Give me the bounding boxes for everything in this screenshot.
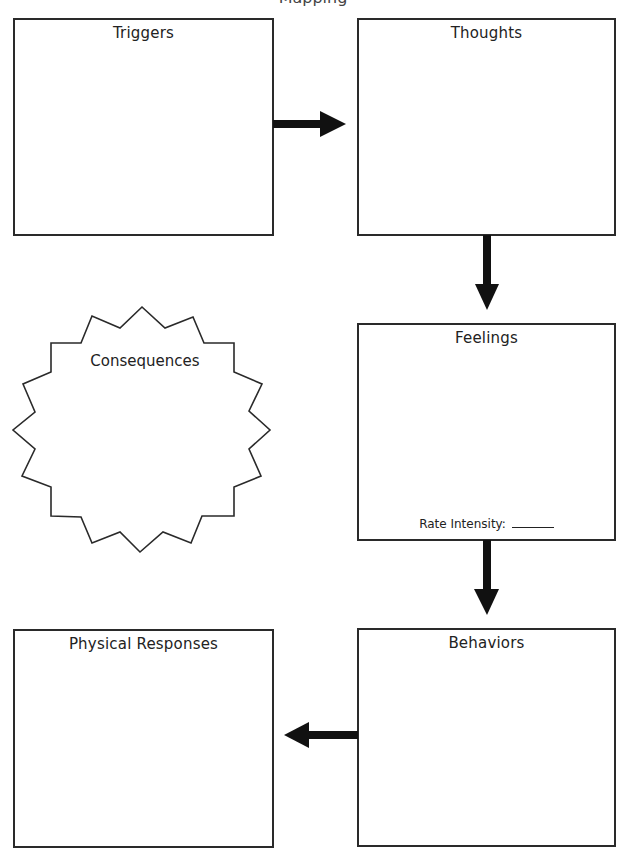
arrow-down-icon (474, 540, 499, 615)
diagram-overlay (0, 0, 626, 859)
arrow-down-icon (475, 235, 499, 310)
consequences-starburst[interactable] (13, 307, 270, 552)
consequences-label: Consequences (60, 352, 230, 370)
arrow-right-icon (273, 111, 346, 137)
arrow-left-icon (284, 722, 358, 748)
